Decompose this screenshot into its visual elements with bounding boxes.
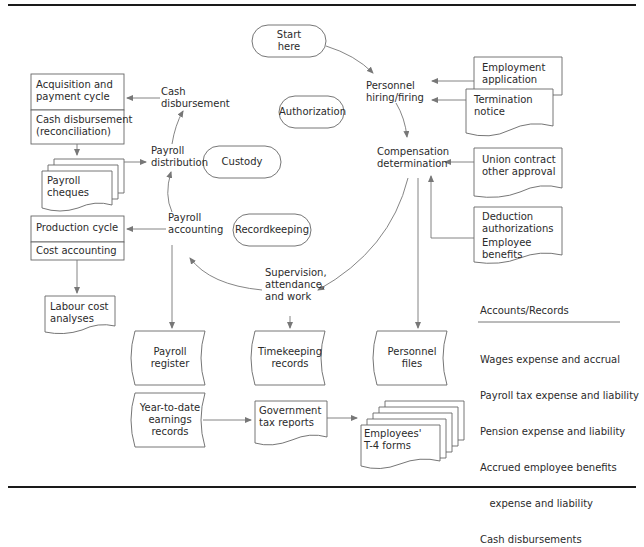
line: Compensation bbox=[377, 146, 447, 158]
payroll-register-label: Payroll register bbox=[135, 346, 205, 370]
line: Payroll bbox=[168, 212, 223, 224]
account-item: Cash disbursements bbox=[480, 534, 639, 546]
acquisition-label: Acquisition and payment cycle bbox=[36, 79, 113, 103]
personnel-hiring-activity: Personnel hiring/firing bbox=[366, 80, 424, 104]
line: cheques bbox=[47, 187, 89, 199]
line: Labour cost bbox=[50, 301, 109, 313]
timekeeping-label: Timekeeping records bbox=[253, 346, 327, 370]
account-item: Pension expense and liability bbox=[480, 426, 639, 438]
termination-notice-label: Termination notice bbox=[474, 94, 533, 118]
line: Personnel bbox=[377, 346, 447, 358]
line: Government bbox=[259, 405, 321, 417]
cash-reconciliation-label: Cash disbursement (reconciliation) bbox=[36, 114, 132, 138]
line: Supervision, bbox=[265, 267, 327, 279]
line: Union contract bbox=[482, 154, 556, 166]
line: disbursement bbox=[161, 98, 230, 110]
start-label: Start here bbox=[252, 29, 326, 53]
cash-disbursement-activity: Cash disbursement bbox=[161, 86, 230, 110]
line: payment cycle bbox=[36, 91, 113, 103]
line: Employees' bbox=[364, 428, 422, 440]
line: register bbox=[135, 358, 205, 370]
t4-forms-label: Employees' T-4 forms bbox=[364, 428, 422, 452]
line: other approval bbox=[482, 166, 556, 178]
compensation-activity: Compensation determination bbox=[377, 146, 447, 170]
line: Timekeeping bbox=[253, 346, 327, 358]
recordkeeping-label: Recordkeeping bbox=[233, 224, 311, 236]
payroll-distribution-activity: Payroll distribution bbox=[151, 145, 208, 169]
accounts-title: Accounts/Records bbox=[480, 305, 569, 317]
line: application bbox=[482, 74, 545, 86]
line: distribution bbox=[151, 157, 208, 169]
account-item: expense and liability bbox=[480, 498, 639, 510]
line: Cash disbursement bbox=[36, 114, 132, 126]
account-item: Accrued employee benefits bbox=[480, 462, 639, 474]
labour-cost-label: Labour cost analyses bbox=[50, 301, 109, 325]
government-tax-label: Government tax reports bbox=[259, 405, 321, 429]
accounts-list: Wages expense and accrual Payroll tax ex… bbox=[480, 330, 639, 547]
line: earnings bbox=[133, 414, 207, 426]
line: accounting bbox=[168, 224, 223, 236]
line: Payroll bbox=[151, 145, 208, 157]
account-item: Wages expense and accrual bbox=[480, 354, 639, 366]
line: Acquisition and bbox=[36, 79, 113, 91]
line: analyses bbox=[50, 313, 109, 325]
line: Payroll bbox=[47, 175, 89, 187]
payroll-accounting-activity: Payroll accounting bbox=[168, 212, 223, 236]
line: Deduction bbox=[482, 211, 553, 223]
ytd-earnings-label: Year-to-date earnings records bbox=[133, 402, 207, 438]
employment-application-label: Employment application bbox=[482, 62, 545, 86]
line: (reconciliation) bbox=[36, 126, 132, 138]
line: files bbox=[377, 358, 447, 370]
custody-label: Custody bbox=[203, 156, 281, 168]
line: Employee bbox=[482, 237, 532, 249]
line: Employment bbox=[482, 62, 545, 74]
line: Cash bbox=[161, 86, 230, 98]
employee-benefits-label: Employee benefits bbox=[482, 237, 532, 261]
line: notice bbox=[474, 106, 533, 118]
authorization-label: Authorization bbox=[279, 106, 344, 118]
line: records bbox=[133, 426, 207, 438]
production-label: Production cycle bbox=[36, 222, 118, 234]
payroll-cheques-label: Payroll cheques bbox=[47, 175, 89, 199]
supervision-activity: Supervision, attendance, and work bbox=[265, 267, 327, 303]
line: tax reports bbox=[259, 417, 321, 429]
line: Personnel bbox=[366, 80, 424, 92]
deduction-label: Deduction authorizations bbox=[482, 211, 553, 235]
cost-accounting-label: Cost accounting bbox=[36, 245, 117, 257]
line: Year-to-date bbox=[133, 402, 207, 414]
union-contract-label: Union contract other approval bbox=[482, 154, 556, 178]
account-item: Payroll tax expense and liability bbox=[480, 390, 639, 402]
line: and work bbox=[265, 291, 327, 303]
line: T-4 forms bbox=[364, 440, 422, 452]
line: Termination bbox=[474, 94, 533, 106]
line: attendance, bbox=[265, 279, 327, 291]
line: Payroll bbox=[135, 346, 205, 358]
line: authorizations bbox=[482, 223, 553, 235]
line: determination bbox=[377, 158, 447, 170]
line: benefits bbox=[482, 249, 532, 261]
line: hiring/firing bbox=[366, 92, 424, 104]
personnel-files-label: Personnel files bbox=[377, 346, 447, 370]
line: records bbox=[253, 358, 327, 370]
